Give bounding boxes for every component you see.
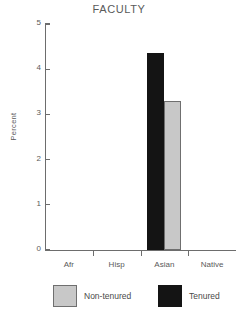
bar-asian-tenured (147, 53, 164, 250)
chart-title: FACULTY (0, 3, 238, 15)
x-axis-tick (141, 250, 142, 256)
legend-item-non-tenured: Non-tenured (53, 285, 131, 307)
y-axis-tick-label: 3 (37, 108, 41, 117)
y-axis-tick-label: 0 (37, 244, 41, 253)
faculty-bar-chart: FACULTY Percent 012345AfrHispAsianNative… (0, 0, 238, 316)
y-axis-tick-label: 5 (37, 18, 41, 27)
y-axis-tick: 0 (45, 249, 50, 250)
legend-swatch-non-tenured (53, 285, 77, 307)
y-axis-label: Percent (9, 97, 18, 157)
plot-area: 012345AfrHispAsianNative (45, 24, 236, 250)
chart-legend: Non-tenured Tenured (0, 285, 238, 316)
y-axis-tick-label: 2 (37, 154, 41, 163)
x-axis-tick-label: Asian (154, 260, 174, 269)
x-axis-tick-label: Hisp (109, 260, 125, 269)
y-axis-tick-label: 4 (37, 63, 41, 72)
legend-swatch-tenured (158, 285, 182, 307)
x-axis-tick (93, 250, 94, 256)
y-axis-tick-label: 1 (37, 199, 41, 208)
legend-label-non-tenured: Non-tenured (84, 291, 131, 301)
y-axis-tick: 2 (45, 159, 50, 160)
legend-item-tenured: Tenured (158, 285, 220, 307)
legend-label-tenured: Tenured (189, 291, 220, 301)
x-axis-tick-label: Afr (64, 260, 74, 269)
y-axis-tick: 4 (45, 69, 50, 70)
y-axis-line (45, 24, 46, 250)
y-axis-tick: 3 (45, 114, 50, 115)
x-axis-tick (188, 250, 189, 256)
bar-asian-non-tenured (164, 101, 181, 250)
y-axis-tick: 1 (45, 204, 50, 205)
x-axis-tick-label: Native (201, 260, 224, 269)
y-axis-tick: 5 (45, 23, 50, 24)
